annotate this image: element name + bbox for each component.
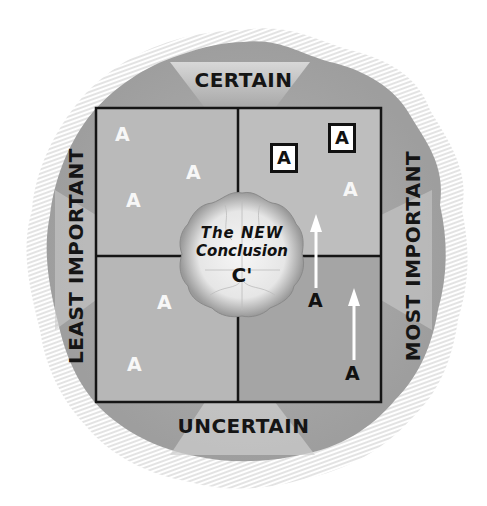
item-a: A (343, 180, 358, 199)
item-a-boxed: A (328, 123, 356, 153)
conclusion-line-2: Conclusion (182, 242, 302, 261)
item-a: A (126, 191, 141, 210)
axis-label-bottom: UNCERTAIN (0, 414, 487, 438)
conclusion-symbol: C' (182, 263, 302, 287)
item-a: A (127, 355, 142, 374)
item-a: A (157, 293, 172, 312)
conclusion-label: The NEW Conclusion C' (182, 224, 302, 287)
axis-label-right: MOST IMPORTANT (401, 151, 425, 361)
item-a: A (186, 163, 201, 182)
item-a: A (308, 291, 323, 310)
axis-label-left: LEAST IMPORTANT (64, 148, 88, 364)
item-a: A (345, 364, 360, 383)
item-a-boxed: A (270, 143, 298, 173)
axis-label-top: CERTAIN (0, 68, 487, 92)
conclusion-line-1: The NEW (182, 224, 302, 242)
item-a: A (115, 125, 130, 144)
